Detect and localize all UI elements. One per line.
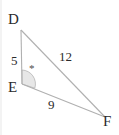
vertex-label-f: F	[103, 114, 111, 129]
side-length-label-ef: 9	[48, 98, 55, 111]
side-length-label-de: 5	[11, 54, 18, 67]
side-de-line	[21, 30, 22, 84]
side-length-label-df: 12	[59, 50, 72, 63]
vertex-label-e: E	[8, 80, 17, 95]
angle-asterisk-marker: *	[29, 62, 35, 74]
geometry-figure: D E F 5 12 9 *	[0, 0, 119, 135]
side-ef-line	[22, 84, 105, 117]
vertex-label-d: D	[8, 12, 19, 27]
